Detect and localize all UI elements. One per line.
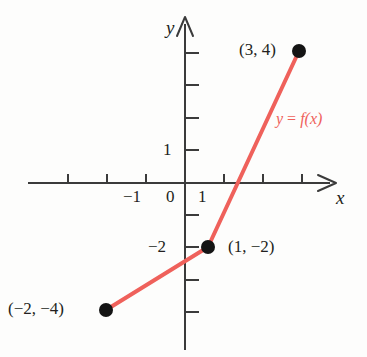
point-marker-c bbox=[99, 303, 113, 317]
function-label: y = f(x) bbox=[276, 111, 322, 127]
origin-label: 0 bbox=[166, 188, 175, 205]
function-graph-figure: y x 1 0 1 −1 −2 (3, 4) (1, −2) (−2, −4) … bbox=[0, 0, 367, 357]
point-label-b: (1, −2) bbox=[228, 238, 274, 255]
point-marker-a bbox=[292, 44, 306, 58]
function-label-rhs: f(x) bbox=[300, 110, 322, 127]
y-tick-label-minus-2: −2 bbox=[148, 238, 166, 255]
function-label-equals: = bbox=[283, 110, 300, 127]
point-label-a: (3, 4) bbox=[239, 41, 276, 58]
x-tick-label-minus-1: −1 bbox=[123, 188, 141, 205]
function-curve bbox=[106, 51, 299, 310]
point-label-c: (−2, −4) bbox=[8, 300, 64, 317]
x-axis-label: x bbox=[336, 188, 344, 207]
y-axis-label: y bbox=[166, 18, 174, 37]
y-tick-label-1: 1 bbox=[163, 141, 172, 158]
point-marker-b bbox=[201, 240, 215, 254]
x-tick-label-1: 1 bbox=[198, 188, 207, 205]
